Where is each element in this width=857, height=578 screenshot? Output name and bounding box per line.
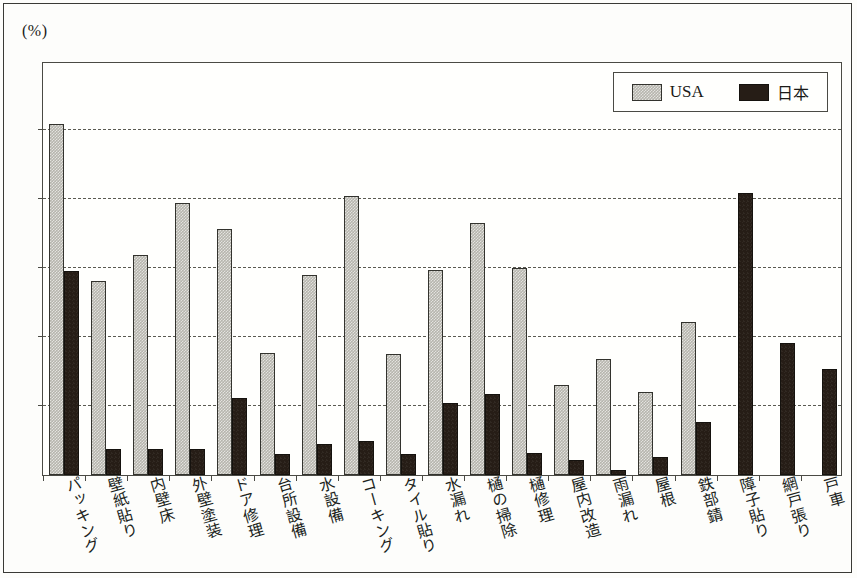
legend-swatch-usa-icon xyxy=(632,84,662,101)
x-tick-mark xyxy=(801,475,802,481)
x-tick-mark xyxy=(590,475,591,481)
bar-japan xyxy=(569,460,584,475)
x-tick-mark xyxy=(43,475,44,481)
x-tick-mark xyxy=(127,475,128,481)
bar-usa xyxy=(512,268,527,475)
bar-japan xyxy=(527,453,542,475)
x-axis-label: 台所設備 xyxy=(263,475,306,544)
x-axis-label: ドア修理 xyxy=(220,475,263,544)
bar-group xyxy=(380,63,422,475)
bar-groups xyxy=(43,63,841,475)
bar-japan xyxy=(148,449,163,475)
x-axis-label: 水設備 xyxy=(305,475,343,528)
bar-usa xyxy=(386,354,401,475)
bar-japan xyxy=(696,422,711,475)
x-tick-mark xyxy=(717,475,718,481)
bar-japan xyxy=(653,457,668,475)
bar-group xyxy=(506,63,548,475)
plot-area: 0102030405060 xyxy=(42,62,842,476)
x-tick-mark xyxy=(464,475,465,481)
bar-usa xyxy=(428,270,443,475)
bar-group xyxy=(338,63,380,475)
x-tick-mark xyxy=(169,475,170,481)
x-axis-label: 障子貼り xyxy=(726,475,769,544)
bar-group xyxy=(127,63,169,475)
bar-usa xyxy=(638,392,653,475)
x-axis-labels: パッキング壁紙貼り内壁床外壁塗装ドア修理台所設備水設備コーキングタイル貼り水漏れ… xyxy=(42,482,842,578)
x-tick-mark xyxy=(506,475,507,481)
x-tick-mark xyxy=(548,475,549,481)
bar-usa xyxy=(217,229,232,475)
x-axis-label: 樋の掃除 xyxy=(473,475,516,544)
bar-usa xyxy=(470,223,485,475)
bar-usa xyxy=(260,353,275,475)
bar-japan xyxy=(275,454,290,475)
legend-entry-usa: USA xyxy=(632,82,704,102)
bar-usa xyxy=(596,359,611,475)
bar-group xyxy=(85,63,127,475)
bar-group xyxy=(590,63,632,475)
bar-group xyxy=(717,63,759,475)
chart-figure: (%) 0102030405060 パッキング壁紙貼り内壁床外壁塗装ドア修理台所… xyxy=(0,0,857,578)
legend-swatch-japan-icon xyxy=(739,84,769,101)
x-axis-label: 樋修理 xyxy=(515,475,553,528)
x-tick-mark xyxy=(632,475,633,481)
x-tick-mark xyxy=(759,475,760,481)
bar-japan xyxy=(359,441,374,476)
bar-usa xyxy=(681,322,696,475)
bar-group xyxy=(759,63,801,475)
bar-group xyxy=(169,63,211,475)
bar-japan xyxy=(317,444,332,475)
bar-japan xyxy=(780,343,795,475)
x-tick-mark xyxy=(296,475,297,481)
bar-usa xyxy=(49,124,64,475)
bar-group xyxy=(422,63,464,475)
x-tick-mark xyxy=(211,475,212,481)
bar-group xyxy=(296,63,338,475)
x-axis-label: 水漏れ xyxy=(431,475,469,528)
legend-entry-japan: 日本 xyxy=(739,80,809,104)
x-tick-mark xyxy=(380,475,381,481)
bar-usa xyxy=(344,196,359,475)
x-axis-label: 雨漏れ xyxy=(599,475,637,528)
bar-japan xyxy=(485,394,500,475)
bar-japan xyxy=(401,454,416,475)
bar-group xyxy=(254,63,296,475)
bar-group xyxy=(211,63,253,475)
x-axis-label: タイル貼り xyxy=(389,475,436,559)
x-axis-label: 鉄部錆 xyxy=(684,475,722,528)
legend-label-japan: 日本 xyxy=(777,80,809,104)
x-axis-label: 外壁塗装 xyxy=(178,475,221,544)
bar-usa xyxy=(554,385,569,475)
x-axis-label: 屋内改造 xyxy=(557,475,600,544)
x-axis-label: 屋根 xyxy=(641,475,675,513)
bar-japan xyxy=(232,398,247,475)
x-axis-label: コーキング xyxy=(347,475,394,559)
x-tick-mark xyxy=(254,475,255,481)
x-axis-label: 壁紙貼り xyxy=(94,475,137,544)
bar-group xyxy=(801,63,843,475)
x-tick-mark xyxy=(338,475,339,481)
bar-japan xyxy=(822,369,837,475)
bar-usa xyxy=(302,275,317,475)
bar-group xyxy=(632,63,674,475)
bar-group xyxy=(675,63,717,475)
x-axis-label: パッキング xyxy=(52,475,99,559)
x-axis-label: 内壁床 xyxy=(136,475,174,528)
bar-usa xyxy=(91,281,106,475)
x-tick-mark xyxy=(422,475,423,481)
bar-group xyxy=(43,63,85,475)
bar-group xyxy=(548,63,590,475)
bar-japan xyxy=(443,403,458,475)
bar-usa xyxy=(133,255,148,475)
bar-japan xyxy=(190,449,205,475)
x-tick-mark xyxy=(85,475,86,481)
bar-japan xyxy=(738,193,753,475)
x-tick-mark xyxy=(675,475,676,481)
chart-legend: USA 日本 xyxy=(613,72,828,112)
x-axis-label: 網戸張り xyxy=(768,475,811,544)
bar-group xyxy=(464,63,506,475)
y-axis-unit-label: (%) xyxy=(22,22,47,40)
bar-japan xyxy=(64,271,79,475)
bar-japan xyxy=(106,449,121,475)
